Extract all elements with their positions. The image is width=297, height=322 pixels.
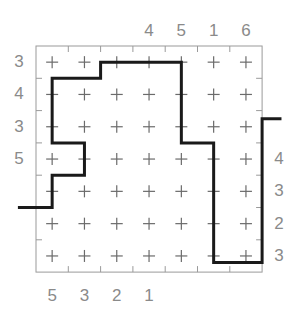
clue-label-bottom: 1 <box>138 286 160 306</box>
clue-label-left: 4 <box>8 84 30 104</box>
clue-label-bottom: 2 <box>106 286 128 306</box>
clue-label-bottom: 3 <box>73 286 95 306</box>
clue-label-right: 3 <box>268 246 290 266</box>
clue-label-right: 4 <box>268 149 290 169</box>
clue-label-top: 4 <box>138 21 160 41</box>
clue-label-top: 1 <box>203 21 225 41</box>
puzzle-canvas <box>0 0 297 322</box>
clue-label-top: 6 <box>235 21 257 41</box>
clue-label-right: 3 <box>268 181 290 201</box>
clue-label-bottom: 5 <box>41 286 63 306</box>
clue-label-left: 3 <box>8 52 30 72</box>
grid-path-puzzle: 4516532134354323 <box>0 0 297 322</box>
clue-label-left: 5 <box>8 149 30 169</box>
clue-label-left: 3 <box>8 117 30 137</box>
clue-label-right: 2 <box>268 214 290 234</box>
clue-label-top: 5 <box>170 21 192 41</box>
